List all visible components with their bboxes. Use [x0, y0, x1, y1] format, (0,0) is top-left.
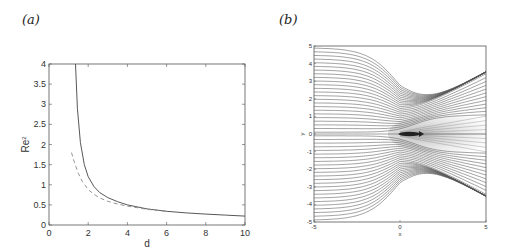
y-tick-label: -5: [307, 219, 313, 225]
y-axis-label: y: [299, 133, 305, 136]
y-tick-label: -2: [307, 166, 313, 172]
y-tick-label: 2: [309, 96, 313, 102]
y-tick-label: -1: [307, 149, 313, 155]
x-tick-label: 0: [398, 224, 402, 230]
y-tick-label: 4: [309, 61, 313, 67]
x-tick-label: -5: [311, 224, 317, 230]
y-tick-label: 1: [309, 113, 313, 119]
body-marker: [398, 132, 420, 136]
x-tick-label: 5: [484, 224, 488, 230]
y-tick-label: 3: [309, 78, 313, 84]
y-tick-label: 0: [309, 131, 313, 137]
chart-b: -505-5-4-3-2-1012345xy: [0, 0, 507, 252]
y-tick-label: -4: [307, 201, 313, 207]
y-tick-label: -3: [307, 184, 313, 190]
x-axis-label: x: [399, 231, 402, 237]
y-tick-label: 5: [309, 43, 313, 49]
